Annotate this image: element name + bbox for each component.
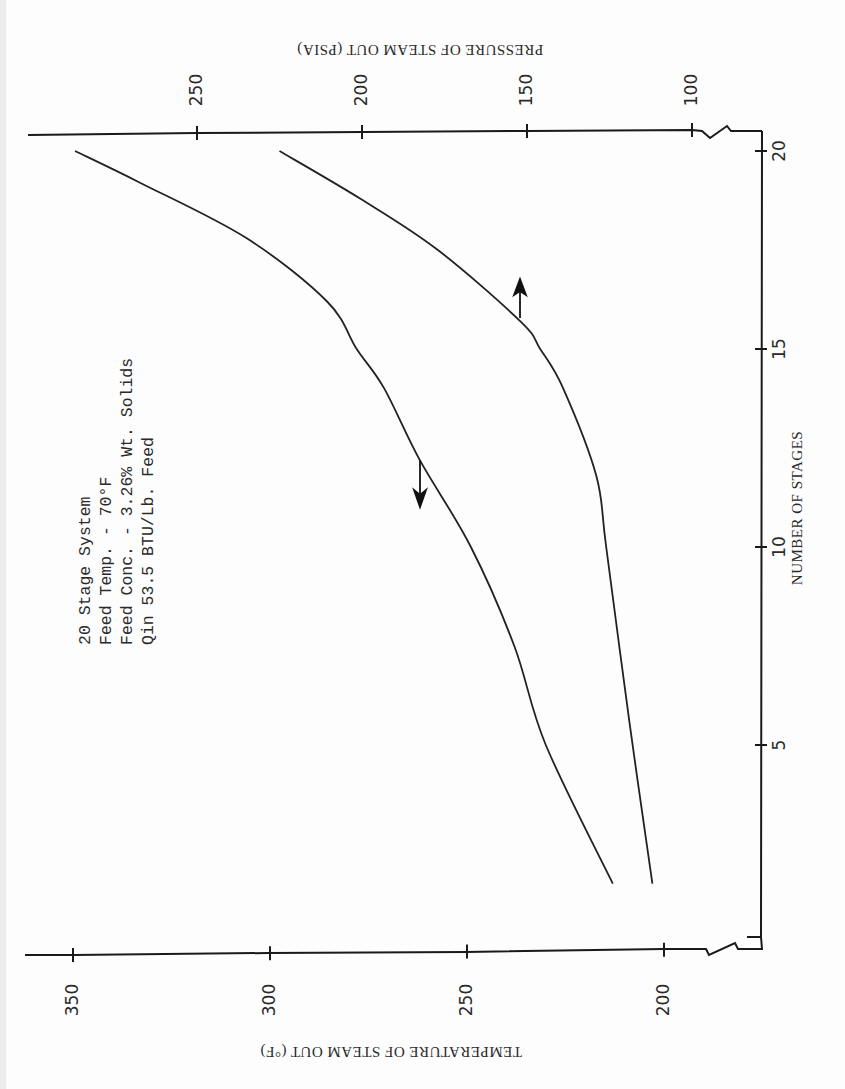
- temperature-tick-label: 300: [259, 984, 279, 1016]
- temperature-tick-label: 200: [653, 984, 673, 1016]
- pressure-tick-label: 200: [351, 74, 371, 106]
- stage-tick-label: 10: [769, 536, 789, 558]
- stage-tick-label: 15: [769, 338, 789, 360]
- annotation-line: 20 Stage System: [76, 496, 95, 645]
- temperature-axis-title: TEMPERATURE OF STEAM OUT (°F): [260, 1043, 522, 1060]
- steam-out-chart: 5101520200250300350100150200250 PRESSURE…: [0, 0, 845, 1089]
- pressure-axis-title: PRESSURE OF STEAM OUT (PSIA): [297, 41, 543, 58]
- conditions-annotation: 20 Stage SystemFeed Temp. - 70°FFeed Con…: [76, 358, 158, 645]
- scanned-chart-page: 5101520200250300350100150200250 PRESSURE…: [0, 0, 845, 1089]
- tick-labels: 5101520200250300350100150200250: [62, 74, 789, 1016]
- pressure-axis-line: [28, 126, 762, 138]
- stages-axis-title: NUMBER OF STAGES: [789, 431, 805, 585]
- stage-tick-label: 5: [769, 740, 789, 751]
- stage-tick-label: 20: [769, 140, 789, 162]
- annotation-line: Qin 53.5 BTU/Lb. Feed: [139, 437, 158, 645]
- pressure-tick-label: 100: [681, 74, 701, 106]
- annotation-line: Feed Temp. - 70°F: [97, 477, 116, 645]
- pressure-curve: [280, 151, 653, 884]
- pressure-tick-label: 150: [516, 74, 536, 106]
- tick-marks: [73, 123, 767, 962]
- temperature-axis-line: [25, 937, 762, 955]
- pressure-arrow-icon: [514, 279, 526, 318]
- temperature-tick-label: 350: [62, 984, 82, 1016]
- stages-axis-line: [747, 131, 762, 937]
- temperature-tick-label: 250: [456, 984, 476, 1016]
- pressure-tick-label: 250: [186, 74, 206, 106]
- annotation-line: Feed Conc. - 3.26% Wt. Solids: [118, 358, 137, 645]
